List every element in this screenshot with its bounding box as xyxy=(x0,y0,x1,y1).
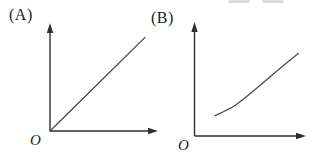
graphs-svg xyxy=(0,0,314,156)
y-axis-arrow-icon-a xyxy=(47,23,53,33)
x-axis-arrow-icon-b xyxy=(296,133,306,139)
graph-b-axes xyxy=(191,22,306,139)
origin-label-b: O xyxy=(178,138,189,153)
figure-canvas: (A) (B) O O xyxy=(0,0,314,156)
series-curve-b xyxy=(215,54,298,116)
origin-label-a: O xyxy=(30,133,41,148)
y-axis-arrow-icon-b xyxy=(191,22,197,32)
series-line-a xyxy=(50,37,145,131)
x-axis-arrow-icon-a xyxy=(148,128,158,134)
